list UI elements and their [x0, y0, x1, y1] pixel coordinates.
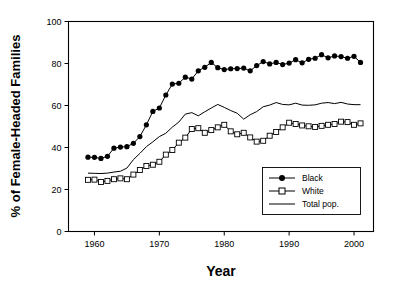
data-point	[131, 172, 136, 177]
data-point	[157, 105, 162, 110]
data-point	[137, 134, 142, 139]
data-point	[254, 139, 259, 144]
data-point	[170, 148, 175, 153]
data-point	[300, 60, 305, 65]
x-tick-label: 1970	[149, 239, 169, 249]
data-point	[254, 63, 259, 68]
open-square-icon	[279, 188, 285, 194]
data-point	[144, 163, 149, 168]
data-point	[313, 56, 318, 61]
x-tick-label: 2000	[344, 239, 364, 249]
data-point	[124, 177, 129, 182]
data-point	[215, 65, 220, 70]
data-point	[163, 152, 168, 157]
data-point	[209, 128, 214, 133]
data-point	[280, 125, 285, 130]
data-point	[189, 76, 194, 81]
data-point	[345, 56, 350, 61]
y-tick-label: 80	[51, 59, 61, 69]
data-point	[293, 121, 298, 126]
data-point	[215, 125, 220, 130]
data-point	[196, 68, 201, 73]
data-point	[306, 124, 311, 129]
data-point	[235, 132, 240, 137]
data-point	[325, 55, 330, 60]
data-point	[222, 122, 227, 127]
data-point	[137, 167, 142, 172]
data-point	[241, 130, 246, 135]
data-point	[261, 59, 266, 64]
data-point	[235, 66, 240, 71]
data-point	[274, 129, 279, 134]
data-point	[338, 54, 343, 59]
data-point	[131, 141, 136, 146]
chart-figure: 020406080100 19601970198019902000 Year %…	[0, 0, 394, 289]
data-point	[196, 126, 201, 131]
data-point	[183, 135, 188, 140]
legend-label-black: Black	[302, 173, 324, 183]
legend-label-total-pop: Total pop.	[302, 199, 339, 209]
data-point	[144, 122, 149, 127]
data-point	[92, 155, 97, 160]
data-point	[280, 62, 285, 67]
data-point	[248, 68, 253, 73]
x-tick-label: 1960	[84, 239, 104, 249]
data-point	[202, 65, 207, 70]
data-point	[332, 121, 337, 126]
data-point	[98, 156, 103, 161]
data-point	[261, 138, 266, 143]
data-point	[339, 119, 344, 124]
data-point	[351, 54, 356, 59]
data-point	[300, 123, 305, 128]
y-tick-label: 0	[56, 227, 61, 237]
y-tick-label: 100	[46, 17, 61, 27]
y-tick-label: 40	[51, 143, 61, 153]
data-point	[358, 60, 363, 65]
data-point	[157, 159, 162, 164]
data-point	[319, 52, 324, 57]
data-point	[150, 109, 155, 114]
data-point	[306, 57, 311, 62]
data-point	[92, 177, 97, 182]
filled-circle-icon	[279, 175, 285, 181]
data-point	[105, 154, 110, 159]
data-point	[85, 155, 90, 160]
y-tick-label: 20	[51, 185, 61, 195]
data-point	[183, 75, 188, 80]
y-tick-label: 60	[51, 101, 61, 111]
legend-label-white: White	[302, 186, 324, 196]
data-point	[228, 66, 233, 71]
data-point	[241, 66, 246, 71]
y-axis-title: % of Female-Headed Families	[8, 35, 23, 218]
data-point	[352, 122, 357, 127]
data-point	[111, 146, 116, 151]
data-point	[319, 123, 324, 128]
data-point	[293, 57, 298, 62]
female-headed-families-line-chart: 020406080100 19601970198019902000 Year %…	[0, 0, 394, 289]
data-point	[150, 162, 155, 167]
data-point	[332, 53, 337, 58]
data-point	[118, 176, 123, 181]
data-point	[326, 122, 331, 127]
data-point	[267, 133, 272, 138]
data-point	[170, 81, 175, 86]
data-point	[222, 67, 227, 72]
data-point	[202, 130, 207, 135]
data-point	[176, 140, 181, 145]
data-point	[105, 178, 110, 183]
data-point	[85, 177, 90, 182]
x-tick-label: 1980	[214, 239, 234, 249]
data-point	[313, 124, 318, 129]
data-point	[287, 120, 292, 125]
data-point	[118, 144, 123, 149]
data-point	[209, 60, 214, 65]
data-point	[287, 60, 292, 65]
data-point	[274, 60, 279, 65]
x-tick-label: 1990	[279, 239, 299, 249]
data-point	[267, 61, 272, 66]
data-point	[248, 135, 253, 140]
data-point	[163, 92, 168, 97]
x-axis-title: Year	[206, 263, 236, 279]
data-point	[358, 121, 363, 126]
data-point	[228, 129, 233, 134]
